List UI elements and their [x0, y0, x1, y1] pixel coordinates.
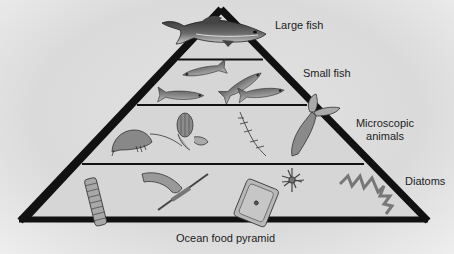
- label-line-1: Microscopic: [354, 117, 416, 130]
- food-pyramid-diagram: Large fish Small fish Microscopic animal…: [0, 0, 454, 254]
- level-label-large-fish: Large fish: [275, 19, 323, 32]
- level-label-diatoms: Diatoms: [405, 175, 445, 188]
- diagram-caption: Ocean food pyramid: [176, 232, 275, 245]
- level-label-microscopic-animals: Microscopic animals: [354, 117, 416, 143]
- level-label-small-fish: Small fish: [303, 67, 351, 80]
- label-line-2: animals: [354, 130, 416, 143]
